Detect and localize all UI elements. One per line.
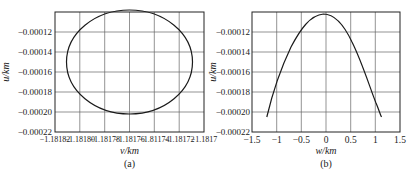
svg-text:0.5: 0.5 [345, 135, 357, 145]
figure: −0.00012 −0.00014 −0.00016 −0.00018 −0.0… [0, 0, 417, 179]
x-axis-label-a: v/km [120, 145, 139, 156]
svg-text:−0.00014: −0.00014 [216, 47, 251, 57]
svg-text:0: 0 [324, 135, 329, 145]
trajectory-parabola [267, 14, 382, 117]
svg-text:1.5: 1.5 [394, 135, 406, 145]
panel-label-b: (b) [320, 158, 332, 170]
svg-text:−0.00014: −0.00014 [18, 47, 53, 57]
svg-text:−0.5: −0.5 [293, 135, 310, 145]
x-axis-label-b: w/km [315, 145, 336, 156]
panel-label-a: (a) [124, 158, 135, 170]
y-axis-label-b: u/km [207, 62, 218, 81]
grid-b [252, 12, 400, 132]
svg-text:1: 1 [373, 135, 378, 145]
chart-b: −0.00012 −0.00014 −0.00016 −0.00018 −0.0… [207, 12, 406, 170]
svg-text:−0.00018: −0.00018 [18, 87, 53, 97]
svg-text:−0.00020: −0.00020 [216, 107, 251, 117]
svg-text:−1.1817: −1.1817 [191, 135, 218, 144]
svg-text:−0.00012: −0.00012 [216, 27, 250, 37]
svg-text:−0.00012: −0.00012 [18, 27, 52, 37]
svg-text:−0.00020: −0.00020 [18, 107, 53, 117]
svg-text:−0.00016: −0.00016 [18, 67, 53, 77]
x-ticks-a: −1.18182 −1.18180 −1.18178 −1.18176 −1.8… [40, 135, 218, 144]
y-ticks-a: −0.00012 −0.00014 −0.00016 −0.00018 −0.0… [18, 27, 53, 137]
y-ticks-b: −0.00012 −0.00014 −0.00016 −0.00018 −0.0… [216, 27, 251, 137]
svg-text:−0.00016: −0.00016 [216, 67, 251, 77]
svg-text:−1.5: −1.5 [243, 135, 260, 145]
svg-text:−0.00018: −0.00018 [216, 87, 251, 97]
chart-a: −0.00012 −0.00014 −0.00016 −0.00018 −0.0… [0, 10, 217, 170]
x-ticks-b: −1.5 −1 −0.5 0 0.5 1 1.5 [243, 135, 406, 145]
svg-text:−1: −1 [272, 135, 282, 145]
y-axis-label-a: u/km [0, 62, 11, 81]
